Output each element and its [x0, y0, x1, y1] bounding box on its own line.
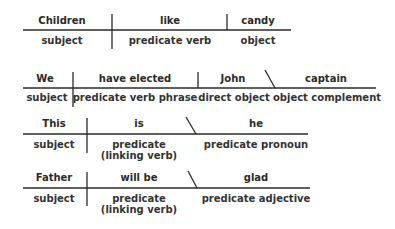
- word-subject: Children: [38, 15, 85, 27]
- word-subject: We: [36, 73, 53, 85]
- complement-slash-4: [188, 171, 197, 188]
- word-subject: Father: [36, 172, 73, 184]
- word-verb: will be: [121, 172, 158, 184]
- label-complement: object complement: [273, 92, 381, 104]
- word-complement: he: [249, 118, 263, 130]
- label-subject: subject: [41, 35, 82, 47]
- complement-slash-3: [186, 117, 196, 134]
- word-object: candy: [241, 15, 274, 27]
- word-direct-object: John: [221, 73, 246, 85]
- label-complement: predicate pronoun: [204, 139, 308, 151]
- label-object: object: [241, 35, 276, 47]
- label-direct-object: direct object: [198, 92, 269, 104]
- sentence-diagrams: Children like candy subject predicate ve…: [0, 0, 395, 229]
- word-complement: glad: [244, 172, 269, 184]
- label-verb-note: (linking verb): [101, 150, 177, 162]
- word-subject: This: [42, 118, 65, 130]
- label-subject: subject: [33, 193, 74, 205]
- label-subject: subject: [33, 139, 74, 151]
- label-verb: predicate verb: [129, 35, 212, 47]
- complement-slash-2: [265, 70, 275, 88]
- word-complement: captain: [305, 73, 347, 85]
- label-verb: predicate verb phrase: [73, 92, 198, 104]
- label-subject: subject: [26, 92, 67, 104]
- word-verb: have elected: [99, 73, 171, 85]
- word-verb: like: [160, 15, 180, 27]
- label-verb-note: (linking verb): [101, 204, 177, 216]
- word-verb: is: [134, 118, 143, 130]
- label-complement: predicate adjective: [202, 193, 311, 205]
